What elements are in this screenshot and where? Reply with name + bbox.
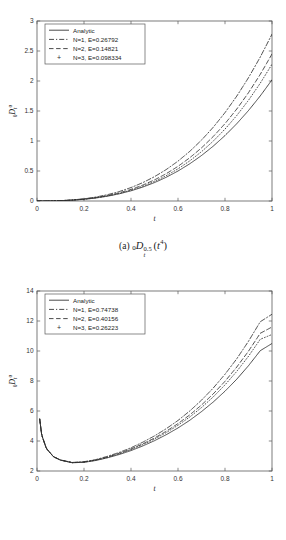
subfigure-b: 00.20.40.60.812468101214t0DtαAnalyticN=1… bbox=[0, 270, 286, 540]
x-tick-label: 0.8 bbox=[220, 205, 229, 212]
caption-a-operator: 0D0.5t(t4) bbox=[132, 238, 167, 251]
caption-a-paren-close: ) bbox=[163, 240, 167, 251]
y-tick-label: 0.5 bbox=[24, 167, 33, 174]
figure-page: 00.20.40.60.8100.511.522.53t0DtαAnalytic… bbox=[0, 0, 286, 540]
series-curve bbox=[37, 54, 272, 201]
x-tick-label: 0 bbox=[35, 475, 39, 482]
legend-label: N=2, E=0.14821 bbox=[73, 45, 119, 52]
y-tick-label: 0 bbox=[30, 197, 34, 204]
x-tick-label: 0.8 bbox=[220, 475, 229, 482]
svg-text:0Dtα: 0Dtα bbox=[7, 104, 19, 117]
chart-legend: AnalyticN=1, E=0.26792N=2, E=0.14821+N=3… bbox=[45, 24, 145, 64]
caption-a-sub: t bbox=[144, 251, 146, 258]
plot-b-wrapper: 00.20.40.60.812468101214t0DtαAnalyticN=1… bbox=[0, 270, 286, 502]
legend-label: Analytic bbox=[73, 297, 95, 304]
plot-a-wrapper: 00.20.40.60.8100.511.522.53t0DtαAnalytic… bbox=[0, 0, 286, 232]
x-tick-label: 0.6 bbox=[173, 205, 182, 212]
y-tick-label: 6 bbox=[30, 407, 34, 414]
caption-a-letter: D bbox=[136, 240, 144, 251]
x-tick-label: 0.6 bbox=[173, 475, 182, 482]
y-axis-label: 0Dtα bbox=[7, 104, 19, 117]
y-tick-label: 12 bbox=[26, 317, 34, 324]
legend-label: N=2, E=0.40156 bbox=[73, 315, 119, 322]
x-tick-label: 0.2 bbox=[79, 475, 88, 482]
series-curve bbox=[37, 80, 272, 201]
chart-legend: AnalyticN=1, E=0.74738N=2, E=0.40156+N=3… bbox=[45, 294, 145, 334]
x-tick-label: 0.2 bbox=[79, 205, 88, 212]
chart-a-canvas: 00.20.40.60.8100.511.522.53t0DtαAnalytic… bbox=[0, 0, 286, 232]
series-curve bbox=[40, 327, 272, 463]
y-tick-label: 8 bbox=[30, 377, 34, 384]
y-tick-label: 1.5 bbox=[24, 107, 33, 114]
y-tick-label: 1 bbox=[30, 137, 34, 144]
chart-b-canvas: 00.20.40.60.812468101214t0DtαAnalyticN=1… bbox=[0, 270, 286, 502]
caption-a-label: (a) bbox=[119, 241, 130, 251]
subfigure-a: 00.20.40.60.8100.511.522.53t0DtαAnalytic… bbox=[0, 0, 286, 270]
legend-label: N=3, E=0.26223 bbox=[73, 324, 119, 331]
caption-a: (a) 0D0.5t(t4) bbox=[0, 238, 286, 251]
x-tick-label: 0 bbox=[35, 205, 39, 212]
x-tick-label: 0.4 bbox=[126, 475, 135, 482]
series-curve bbox=[40, 335, 272, 463]
x-tick-label: 0.4 bbox=[126, 205, 135, 212]
legend-marker-dot: + bbox=[57, 324, 61, 331]
x-axis-label: t bbox=[153, 484, 156, 493]
y-tick-label: 2.5 bbox=[24, 47, 33, 54]
legend-label: N=3, E=0.098334 bbox=[73, 54, 122, 61]
y-tick-label: 3 bbox=[30, 17, 34, 24]
y-tick-label: 10 bbox=[26, 347, 34, 354]
x-tick-label: 1 bbox=[270, 475, 274, 482]
series-curve bbox=[40, 344, 272, 463]
x-tick-label: 1 bbox=[270, 205, 274, 212]
legend-marker-dot: + bbox=[57, 54, 61, 61]
y-tick-label: 14 bbox=[26, 287, 34, 294]
legend-label: N=1, E=0.74738 bbox=[73, 306, 119, 313]
y-tick-label: 4 bbox=[30, 437, 34, 444]
y-tick-label: 2 bbox=[30, 77, 34, 84]
legend-label: N=1, E=0.26792 bbox=[73, 36, 119, 43]
caption-a-presub: 0 bbox=[132, 244, 136, 252]
x-axis-label: t bbox=[153, 214, 156, 223]
series-curve bbox=[37, 64, 272, 201]
legend-label: Analytic bbox=[73, 27, 95, 34]
y-tick-label: 2 bbox=[30, 467, 34, 474]
svg-text:0Dtα: 0Dtα bbox=[7, 374, 19, 387]
y-axis-label: 0Dtα bbox=[7, 374, 19, 387]
